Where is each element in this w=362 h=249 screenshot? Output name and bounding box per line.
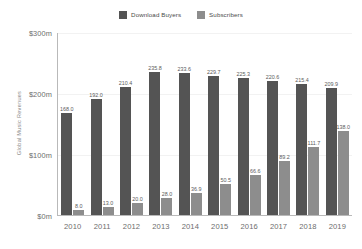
x-axis-tick-label: 2012: [117, 222, 146, 231]
bar-download-buyers: 168.0: [61, 113, 72, 215]
x-axis-line: [57, 215, 352, 216]
bar-value-label: 220.6: [266, 74, 280, 80]
bar-value-label: 168.0: [60, 106, 74, 112]
bar-value-label: 192.0: [89, 92, 103, 98]
bar-subscribers: 8.0: [73, 210, 84, 215]
bar-subscribers: 66.6: [250, 175, 261, 215]
y-axis-tick-label: $100m: [29, 151, 52, 160]
bar-value-label: 233.6: [178, 66, 192, 72]
bar-value-label: 13.0: [103, 200, 114, 206]
bar-value-label: 210.4: [119, 80, 133, 86]
bar-value-label: 138.0: [337, 124, 351, 130]
bar-value-label: 66.6: [250, 168, 261, 174]
bar-subscribers: 50.5: [220, 184, 231, 215]
legend-swatch-subscribers: [197, 11, 205, 19]
plot-area: $0m$100m$200m$300m 168.08.0192.013.0210.…: [57, 33, 352, 216]
y-axis-title: Global Music Revenues: [16, 63, 22, 183]
x-axis-tick-label: 2017: [264, 222, 293, 231]
bar-group: 235.828.0: [146, 33, 175, 215]
bar-subscribers: 89.2: [279, 161, 290, 215]
bar-download-buyers: 235.8: [149, 72, 160, 215]
chart-legend: Download Buyers Subscribers: [0, 11, 362, 19]
bar-subscribers: 138.0: [338, 131, 349, 215]
bar-value-label: 89.2: [279, 154, 290, 160]
legend-item-subscribers: Subscribers: [197, 11, 243, 19]
bar-download-buyers: 225.3: [238, 78, 249, 215]
bar-group: 192.013.0: [87, 33, 116, 215]
x-axis-tick-label: 2011: [87, 222, 116, 231]
bar-subscribers: 28.0: [161, 198, 172, 215]
bar-subscribers: 13.0: [103, 207, 114, 215]
y-axis-tick-label: $200m: [29, 90, 52, 99]
bar-group: 233.636.9: [176, 33, 205, 215]
bar-group: 215.4111.7: [293, 33, 322, 215]
y-axis-tick-label: $0m: [37, 212, 52, 221]
bar-groups: 168.08.0192.013.0210.420.0235.828.0233.6…: [58, 33, 352, 215]
bar-value-label: 235.8: [148, 65, 162, 71]
legend-swatch-download-buyers: [119, 11, 127, 19]
legend-label-subscribers: Subscribers: [209, 11, 243, 19]
bar-value-label: 50.5: [220, 177, 231, 183]
y-axis-tick-label: $300m: [29, 29, 52, 38]
x-axis-tick-label: 2014: [176, 222, 205, 231]
bar-subscribers: 36.9: [191, 193, 202, 215]
bar-download-buyers: 209.9: [326, 88, 337, 215]
bar-value-label: 229.7: [207, 69, 221, 75]
bar-download-buyers: 220.6: [267, 81, 278, 215]
bar-group: 209.9138.0: [323, 33, 352, 215]
bar-value-label: 215.4: [295, 77, 309, 83]
bar-value-label: 209.9: [325, 81, 339, 87]
bar-group: 229.750.5: [205, 33, 234, 215]
bar-group: 225.366.6: [234, 33, 263, 215]
x-axis-tick-label: 2013: [146, 222, 175, 231]
x-axis-tick-label: 2018: [293, 222, 322, 231]
x-axis-labels: 2010201120122013201420152016201720182019: [58, 222, 352, 231]
bar-value-label: 28.0: [162, 191, 173, 197]
legend-item-download-buyers: Download Buyers: [119, 11, 181, 19]
bar-value-label: 8.0: [75, 203, 83, 209]
bar-group: 210.420.0: [117, 33, 146, 215]
x-axis-tick-label: 2015: [205, 222, 234, 231]
bar-download-buyers: 215.4: [296, 84, 307, 215]
x-axis-tick-label: 2019: [323, 222, 352, 231]
bar-value-label: 111.7: [308, 140, 321, 146]
legend-label-download-buyers: Download Buyers: [131, 11, 181, 19]
bar-subscribers: 111.7: [308, 147, 319, 215]
bar-group: 220.689.2: [264, 33, 293, 215]
bar-value-label: 225.3: [236, 71, 250, 77]
bar-value-label: 20.0: [132, 196, 143, 202]
bar-download-buyers: 192.0: [91, 99, 102, 215]
x-axis-tick-label: 2016: [234, 222, 263, 231]
bar-download-buyers: 233.6: [179, 73, 190, 215]
bar-group: 168.08.0: [58, 33, 87, 215]
bar-value-label: 36.9: [191, 186, 202, 192]
bar-subscribers: 20.0: [132, 203, 143, 215]
x-axis-tick-label: 2010: [58, 222, 87, 231]
bar-download-buyers: 210.4: [120, 87, 131, 215]
bar-chart: Download Buyers Subscribers Global Music…: [0, 0, 362, 249]
bar-download-buyers: 229.7: [208, 76, 219, 215]
